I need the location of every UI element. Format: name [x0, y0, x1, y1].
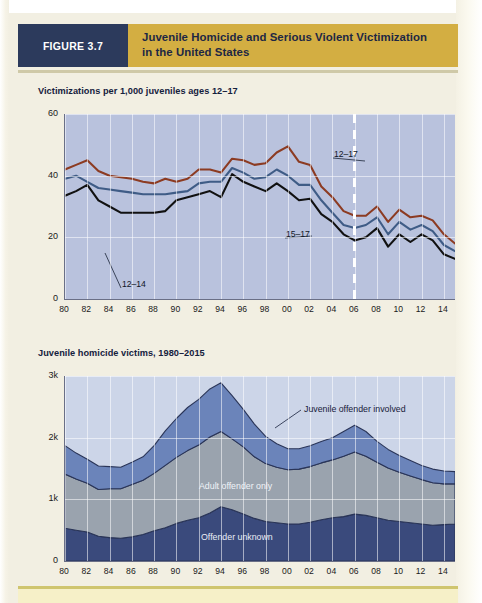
x-axis-tick-label: 92 [187, 566, 209, 576]
gridline-vertical [444, 114, 445, 299]
x-axis-tick-label: 84 [98, 304, 120, 314]
x-axis-tick-label: 88 [142, 566, 164, 576]
y-axis-tick-label: 20 [38, 231, 58, 241]
gridline-horizontal [65, 114, 455, 115]
y-axis-tick-label: 3k [38, 370, 58, 380]
x-axis-tick-label: 14 [432, 566, 454, 576]
x-axis-tick-label: 02 [298, 304, 320, 314]
x-axis-tick-label: 94 [209, 304, 231, 314]
x-axis-tick-label: 82 [75, 566, 97, 576]
gridline-vertical [110, 114, 111, 299]
x-axis-tick-label: 06 [343, 566, 365, 576]
x-axis-tick-label: 00 [276, 566, 298, 576]
x-axis-tick-label: 94 [209, 566, 231, 576]
gridline-horizontal [65, 499, 455, 500]
x-axis-tick-label: 98 [254, 304, 276, 314]
x-axis-tick-label: 96 [231, 566, 253, 576]
x-axis-tick-label: 96 [231, 304, 253, 314]
x-axis-tick-label: 86 [120, 566, 142, 576]
x-axis-tick-label: 06 [343, 304, 365, 314]
gridline-vertical [288, 114, 289, 299]
series-label-15-17: 15–17 [286, 229, 310, 239]
chart-juvenile-homicide-victims: Juvenile homicide victims, 1980–2015 01k… [38, 348, 458, 580]
gridline-vertical [288, 376, 289, 561]
chart1-plot-area [64, 114, 455, 300]
chart2-caption: Juvenile homicide victims, 1980–2015 [38, 348, 458, 358]
area-label-adult-offender-only: Adult offender only [199, 481, 272, 491]
gridline-horizontal [65, 376, 455, 377]
figure-title-line2: in the United States [142, 45, 448, 60]
paper-right-edge [456, 0, 482, 603]
gridline-vertical [199, 114, 200, 299]
gridline-horizontal [65, 237, 455, 238]
x-axis-tick-label: 12 [410, 566, 432, 576]
gridline-vertical [266, 114, 267, 299]
x-axis-tick-label: 10 [387, 304, 409, 314]
x-axis-tick-label: 82 [75, 304, 97, 314]
gridline-vertical [65, 114, 66, 299]
x-axis-tick-label: 00 [276, 304, 298, 314]
gridline-horizontal [65, 438, 455, 439]
gridline-horizontal [65, 176, 455, 177]
gridline-vertical [422, 376, 423, 561]
gridline-vertical [377, 114, 378, 299]
gridline-vertical [243, 114, 244, 299]
x-axis-tick-label: 88 [142, 304, 164, 314]
figure-number-tag: FIGURE 3.7 [18, 24, 128, 67]
x-axis-tick-label: 02 [298, 566, 320, 576]
area-label-juvenile-offender-involved: Juvenile offender involved [304, 404, 406, 414]
gridline-vertical [154, 114, 155, 299]
y-axis-tick-label: 0 [38, 293, 58, 303]
gridline-vertical [310, 114, 311, 299]
gridline-vertical [176, 114, 177, 299]
x-axis-tick-label: 80 [53, 566, 75, 576]
figure-title-line1: Juvenile Homicide and Serious Violent Vi… [142, 31, 427, 43]
y-axis-tick-label: 60 [38, 108, 58, 118]
x-axis-tick-label: 08 [365, 304, 387, 314]
series-label-12-14: 12–14 [122, 279, 146, 289]
y-axis-tick-label: 40 [38, 170, 58, 180]
x-axis-tick-label: 04 [320, 304, 342, 314]
y-axis-tick-label: 2k [38, 432, 58, 442]
figure-title: Juvenile Homicide and Serious Violent Vi… [128, 24, 458, 67]
gridline-vertical [199, 376, 200, 561]
chart1-gridlines [65, 114, 455, 299]
paper-top-edge [0, 0, 482, 13]
dashed-reference-line [353, 114, 356, 299]
figure-header: FIGURE 3.7 Juvenile Homicide and Serious… [18, 24, 458, 67]
x-axis-tick-label: 92 [187, 304, 209, 314]
gridline-vertical [176, 376, 177, 561]
x-axis-tick-label: 90 [164, 304, 186, 314]
area-label-offender-unknown: Offender unknown [201, 532, 273, 542]
x-axis-tick-label: 12 [410, 304, 432, 314]
gridline-vertical [132, 376, 133, 561]
footer-band [18, 589, 458, 603]
x-axis-tick-label: 98 [254, 566, 276, 576]
gridline-vertical [132, 114, 133, 299]
y-axis-tick-label: 0 [38, 555, 58, 565]
x-axis-tick-label: 08 [365, 566, 387, 576]
x-axis-tick-label: 10 [387, 566, 409, 576]
series-label-12-17: 12–17 [334, 149, 358, 159]
x-axis-tick-label: 80 [53, 304, 75, 314]
x-axis-tick-label: 04 [320, 566, 342, 576]
figure-page: FIGURE 3.7 Juvenile Homicide and Serious… [0, 0, 482, 603]
x-axis-tick-label: 90 [164, 566, 186, 576]
chart-victimization-rates: Victimizations per 1,000 juveniles ages … [38, 86, 458, 308]
gridline-vertical [221, 114, 222, 299]
gridline-vertical [422, 114, 423, 299]
gridline-vertical [110, 376, 111, 561]
gridline-vertical [332, 114, 333, 299]
chart1-caption: Victimizations per 1,000 juveniles ages … [38, 86, 458, 96]
gridline-vertical [154, 376, 155, 561]
x-axis-tick-label: 84 [98, 566, 120, 576]
header-rule [18, 70, 458, 73]
y-axis-tick-label: 1k [38, 493, 58, 503]
x-axis-tick-label: 86 [120, 304, 142, 314]
paper-left-edge [0, 0, 9, 603]
gridline-vertical [87, 114, 88, 299]
x-axis-tick-label: 14 [432, 304, 454, 314]
gridline-vertical [87, 376, 88, 561]
gridline-vertical [399, 114, 400, 299]
gridline-vertical [444, 376, 445, 561]
